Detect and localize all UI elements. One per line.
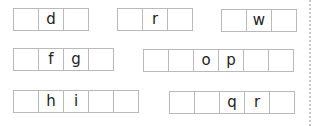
letter-cell[interactable]: g xyxy=(63,48,89,71)
letter-cell[interactable]: o xyxy=(193,49,219,72)
letter-cell[interactable] xyxy=(271,9,297,32)
letter-cell[interactable] xyxy=(167,8,193,31)
letter-cell[interactable] xyxy=(88,90,114,113)
letter-cell[interactable] xyxy=(13,48,39,71)
dotted-margin-line xyxy=(309,0,311,126)
letter-cell[interactable] xyxy=(88,48,114,71)
letter-cell[interactable]: d xyxy=(38,8,64,31)
letter-cell[interactable]: i xyxy=(63,90,89,113)
letter-cell[interactable] xyxy=(113,90,139,113)
letter-grid-6: h i xyxy=(13,90,139,113)
letter-cell[interactable]: r xyxy=(244,91,270,114)
letter-cell[interactable] xyxy=(117,8,143,31)
letter-cell[interactable]: q xyxy=(219,91,245,114)
letter-grid-5: o p xyxy=(143,49,294,72)
letter-cell[interactable]: h xyxy=(38,90,64,113)
letter-cell[interactable]: f xyxy=(38,48,64,71)
letter-cell[interactable] xyxy=(143,49,169,72)
letter-cell[interactable]: p xyxy=(218,49,244,72)
letter-cell[interactable] xyxy=(268,49,294,72)
letter-cell[interactable]: r xyxy=(142,8,168,31)
letter-grid-1: d xyxy=(13,8,89,31)
letter-cell[interactable] xyxy=(169,91,195,114)
letter-cell[interactable] xyxy=(221,9,247,32)
letter-cell[interactable] xyxy=(243,49,269,72)
letter-cell[interactable] xyxy=(63,8,89,31)
letter-cell[interactable] xyxy=(269,91,295,114)
letter-cell[interactable] xyxy=(13,90,39,113)
letter-grid-3: w xyxy=(221,9,297,32)
letter-cell[interactable] xyxy=(194,91,220,114)
letter-cell[interactable]: w xyxy=(246,9,272,32)
letter-grid-4: f g xyxy=(13,48,114,71)
letter-cell[interactable] xyxy=(13,8,39,31)
letter-grid-2: r xyxy=(117,8,193,31)
letter-cell[interactable] xyxy=(168,49,194,72)
letter-grid-7: q r xyxy=(169,91,295,114)
